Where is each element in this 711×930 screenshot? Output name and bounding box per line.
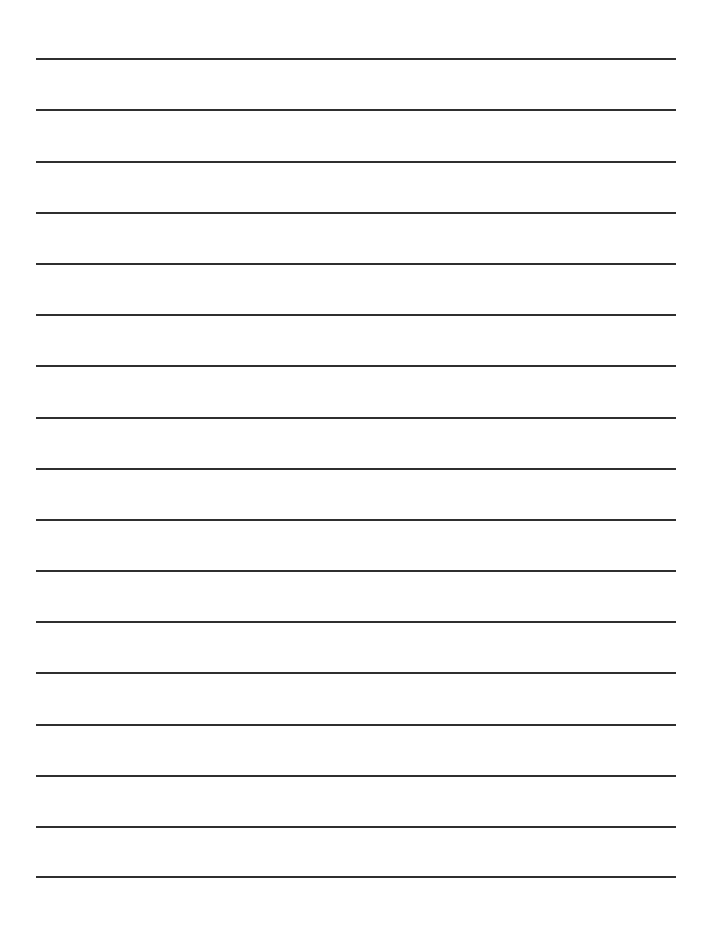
ruled-line <box>36 468 676 470</box>
ruled-line <box>36 826 676 828</box>
ruled-line <box>36 365 676 367</box>
ruled-line <box>36 417 676 419</box>
ruled-line <box>36 161 676 163</box>
ruled-line <box>36 109 676 111</box>
ruled-line <box>36 314 676 316</box>
ruled-line <box>36 263 676 265</box>
ruled-line <box>36 876 676 878</box>
ruled-line <box>36 212 676 214</box>
ruled-line <box>36 58 676 60</box>
ruled-line <box>36 621 676 623</box>
ruled-line <box>36 672 676 674</box>
ruled-line <box>36 570 676 572</box>
ruled-line <box>36 775 676 777</box>
ruled-line <box>36 519 676 521</box>
ruled-line <box>36 724 676 726</box>
lined-page <box>0 0 711 930</box>
